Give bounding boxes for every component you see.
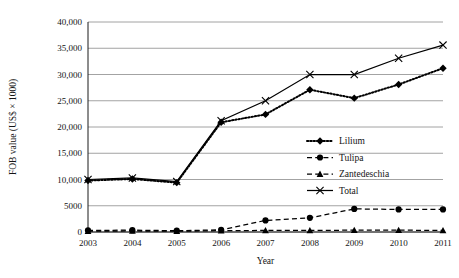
x-tick-label: 2009 (345, 238, 364, 248)
data-point-diamond (129, 175, 136, 182)
data-point-circle (317, 154, 323, 160)
x-tick-label: 2004 (123, 238, 142, 248)
gridlines-group: 0500010,00015,00020,00025,00030,00035,00… (57, 17, 443, 237)
x-axis-labels-group: 200320042005200620072008200920102011 (79, 238, 452, 248)
data-point-circle (440, 206, 446, 212)
line-chart: 0500010,00015,00020,00025,00030,00035,00… (0, 0, 459, 278)
data-point-circle (174, 228, 180, 234)
data-point-circle (396, 206, 402, 212)
data-point-circle (218, 227, 224, 233)
legend-item-lilium[interactable]: Lilium (307, 136, 365, 146)
data-point-circle (85, 227, 91, 233)
data-point-circle (129, 227, 135, 233)
data-point-circle (307, 215, 313, 221)
data-point-x (439, 42, 446, 49)
y-tick-label: 0 (78, 227, 83, 237)
x-tick-label: 2007 (257, 238, 276, 248)
y-tick-label: 35,000 (57, 43, 82, 53)
legend-item-total[interactable]: Total (307, 186, 359, 196)
legend-item-tulipa[interactable]: Tulipa (307, 153, 364, 163)
data-point-diamond (439, 65, 446, 72)
y-tick-label: 40,000 (57, 17, 82, 27)
x-tick-label: 2003 (79, 238, 98, 248)
legend-label: Zantedeschia (339, 169, 390, 179)
series-line (88, 68, 443, 182)
x-axis-title: Year (257, 256, 275, 266)
legend-label: Tulipa (339, 153, 364, 163)
y-tick-label: 25,000 (57, 96, 82, 106)
y-axis-title: FOB value (US$ × 1000) (8, 79, 19, 175)
legend: LiliumTulipaZantedeschiaTotal (307, 136, 390, 196)
data-point-diamond (395, 81, 402, 88)
x-tick-label: 2008 (301, 238, 320, 248)
data-point-circle (262, 217, 268, 223)
chart-figure: 0500010,00015,00020,00025,00030,00035,00… (0, 0, 459, 278)
x-tick-label: 2005 (168, 238, 187, 248)
y-tick-label: 10,000 (57, 175, 82, 185)
x-tick-label: 2006 (212, 238, 231, 248)
y-tick-label: 20,000 (57, 122, 82, 132)
y-tick-label: 15,000 (57, 148, 82, 158)
data-point-diamond (84, 177, 91, 184)
legend-label: Total (339, 186, 359, 196)
series-lilium (84, 65, 446, 187)
data-point-x (395, 55, 402, 62)
legend-item-zantedeschia[interactable]: Zantedeschia (307, 169, 390, 179)
legend-label: Lilium (339, 136, 365, 146)
data-point-diamond (316, 137, 323, 144)
y-tick-label: 5000 (64, 201, 83, 211)
x-tick-label: 2011 (434, 238, 452, 248)
data-point-diamond (262, 111, 269, 118)
x-tick-label: 2010 (390, 238, 409, 248)
y-tick-label: 30,000 (57, 70, 82, 80)
data-point-circle (351, 206, 357, 212)
data-point-diamond (306, 86, 313, 93)
